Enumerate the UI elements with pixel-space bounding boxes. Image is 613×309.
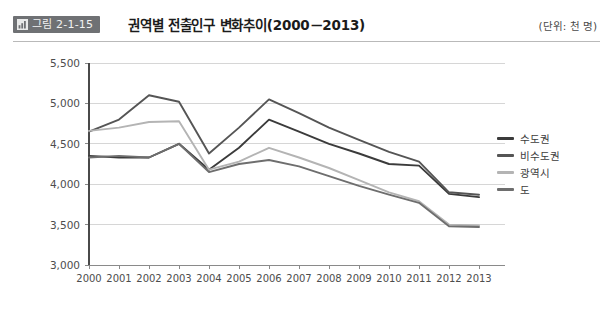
series-line-비수도권 [89, 95, 479, 194]
x-axis-label: 2003 [166, 273, 191, 284]
x-axis-label: 2013 [466, 273, 491, 284]
y-axis-label: 3,000 [50, 259, 80, 271]
chart-legend: 수도권비수도권광역시도 [497, 130, 605, 198]
x-axis-label: 2008 [316, 273, 341, 284]
y-axis-label: 5,500 [50, 57, 80, 69]
x-axis-label: 2010 [376, 273, 401, 284]
legend-label: 광역시 [520, 165, 550, 180]
series-line-광역시 [89, 121, 479, 225]
legend-label: 도 [520, 182, 530, 197]
legend-item-비수도권[interactable]: 비수도권 [497, 147, 605, 164]
x-axis-label: 2006 [256, 273, 281, 284]
figure-number-text: 그림 2-1-15 [32, 19, 93, 30]
y-axis-label: 4,000 [50, 178, 80, 190]
figure-number-badge: 그림 2-1-15 [13, 16, 100, 33]
figure-title: 권역별 전출인구 변화추이(2000－2013) [128, 14, 365, 34]
figure-header: 그림 2-1-15 권역별 전출인구 변화추이(2000－2013) (단위: … [0, 0, 613, 46]
y-axis-label: 5,000 [50, 97, 80, 109]
y-axis-label: 3,500 [50, 219, 80, 231]
legend-label: 수도권 [520, 131, 550, 146]
x-axis-label: 2001 [106, 273, 131, 284]
legend-color-swatch [497, 188, 514, 191]
legend-item-도[interactable]: 도 [497, 181, 605, 198]
legend-color-swatch [497, 171, 514, 174]
x-axis-label: 2005 [226, 273, 251, 284]
legend-color-swatch [497, 154, 514, 157]
figure-container: 그림 2-1-15 권역별 전출인구 변화추이(2000－2013) (단위: … [0, 0, 613, 309]
x-axis-label: 2009 [346, 273, 371, 284]
chart-plot-area: 3,0003,5004,0004,5005,0005,5002000200120… [0, 46, 613, 309]
x-axis-label: 2007 [286, 273, 311, 284]
header-divider [13, 41, 600, 42]
x-axis-label: 2011 [406, 273, 431, 284]
x-axis-label: 2012 [436, 273, 461, 284]
y-axis-label: 4,500 [50, 138, 80, 150]
legend-item-광역시[interactable]: 광역시 [497, 164, 605, 181]
series-line-도 [89, 144, 479, 227]
x-axis-label: 2002 [136, 273, 161, 284]
bar-chart-icon [17, 19, 28, 30]
legend-color-swatch [497, 137, 514, 140]
legend-item-수도권[interactable]: 수도권 [497, 130, 605, 147]
x-axis-label: 2000 [76, 273, 101, 284]
unit-note: (단위: 천 명) [539, 18, 597, 33]
x-axis-label: 2004 [196, 273, 221, 284]
legend-label: 비수도권 [520, 148, 560, 163]
